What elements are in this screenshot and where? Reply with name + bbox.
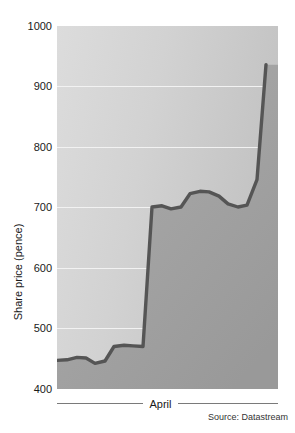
y-tick-500: 500: [34, 322, 52, 334]
y-axis-title: Share price (pence): [12, 224, 24, 321]
y-tick-600: 600: [34, 262, 52, 274]
source-attribution: Source: Datastream: [208, 412, 288, 422]
y-tick-700: 700: [34, 201, 52, 213]
chart-canvas: 1000 900 800 700 600 500 400 Share price…: [0, 0, 295, 433]
x-axis: April: [57, 398, 278, 410]
share-price-chart-figure: 1000 900 800 700 600 500 400 Share price…: [0, 0, 295, 433]
y-axis-tick-labels: 1000 900 800 700 600 500 400: [28, 20, 52, 395]
y-tick-800: 800: [34, 141, 52, 153]
y-tick-900: 900: [34, 80, 52, 92]
y-tick-1000: 1000: [28, 20, 52, 32]
y-tick-400: 400: [34, 383, 52, 395]
x-axis-label-april: April: [149, 398, 171, 410]
